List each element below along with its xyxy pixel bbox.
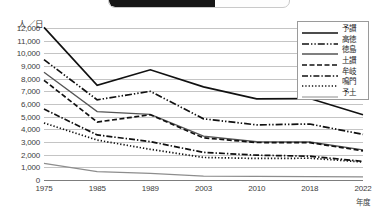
cropped-tab-artifact	[108, 0, 290, 8]
legend-line-sample	[301, 56, 339, 66]
y-tick-label: 11,000	[6, 36, 40, 45]
x-tick-label: 1975	[36, 184, 53, 193]
legend-item-徳島[interactable]: 徳島	[301, 45, 365, 56]
legend-label: 高徳	[342, 35, 355, 45]
x-tick-label: 2010	[248, 184, 265, 193]
y-tick-label: 7,000	[6, 87, 40, 96]
x-tick-label: 2018	[301, 184, 318, 193]
legend-line-sample	[301, 24, 339, 34]
x-axis-unit-label: 年度	[356, 196, 370, 207]
x-tick-label: 2003	[195, 184, 212, 193]
y-tick-label: 5,000	[6, 112, 40, 121]
x-tick-label: 2022	[355, 184, 372, 193]
legend-line-sample	[301, 77, 339, 87]
legend-label: 予讃	[342, 24, 355, 34]
y-tick-label: 2,000	[6, 150, 40, 159]
legend-label: 鳴門	[342, 77, 355, 87]
x-tick-label: 1989	[142, 184, 159, 193]
x-axis-line	[44, 180, 363, 181]
y-tick-label: 6,000	[6, 100, 40, 109]
legend-item-高徳[interactable]: 高徳	[301, 35, 365, 46]
legend-line-sample	[301, 67, 339, 77]
y-tick-label: 12,000	[6, 24, 40, 33]
legend-item-鳴門[interactable]: 鳴門	[301, 77, 365, 88]
cropped-tab-fill	[109, 0, 215, 7]
y-tick-label: 3,000	[6, 138, 40, 147]
y-tick-label: 1,000	[6, 163, 40, 172]
x-tick-label: 1985	[89, 184, 106, 193]
x-axis-tick-labels: 1975198519892003201020182022	[44, 184, 363, 198]
chart-legend: 予讃高徳徳島土讃牟岐鳴門予土	[297, 21, 369, 100]
legend-label: 予土	[342, 88, 355, 98]
legend-label: 牟岐	[342, 67, 355, 77]
chart-page: 人／日 01,0002,0003,0004,0005,0006,0007,000…	[0, 0, 372, 213]
y-tick-label: 9,000	[6, 62, 40, 71]
legend-line-sample	[301, 45, 339, 55]
y-tick-label: 8,000	[6, 74, 40, 83]
legend-label: 土讃	[342, 56, 355, 66]
line-chart: 人／日 01,0002,0003,0004,0005,0006,0007,000…	[0, 8, 372, 213]
legend-line-sample	[301, 35, 339, 45]
legend-item-牟岐[interactable]: 牟岐	[301, 66, 365, 77]
legend-line-sample	[301, 88, 339, 98]
y-tick-label: 4,000	[6, 125, 40, 134]
series-line-予土	[44, 163, 363, 177]
y-tick-label: 10,000	[6, 49, 40, 58]
y-axis-tick-labels: 01,0002,0003,0004,0005,0006,0007,0008,00…	[0, 28, 40, 180]
legend-item-予讃[interactable]: 予讃	[301, 24, 365, 35]
legend-item-土讃[interactable]: 土讃	[301, 56, 365, 67]
legend-label: 徳島	[342, 45, 355, 55]
legend-item-予土[interactable]: 予土	[301, 88, 365, 99]
